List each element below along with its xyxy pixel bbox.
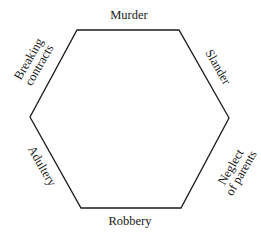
label-murder: Murder bbox=[110, 9, 148, 21]
label-robbery-text: Robbery bbox=[108, 215, 151, 227]
label-murder-text: Murder bbox=[110, 9, 148, 21]
hexagon-diagram bbox=[0, 0, 261, 236]
label-robbery: Robbery bbox=[108, 215, 151, 227]
hexagon-outline bbox=[30, 30, 229, 208]
